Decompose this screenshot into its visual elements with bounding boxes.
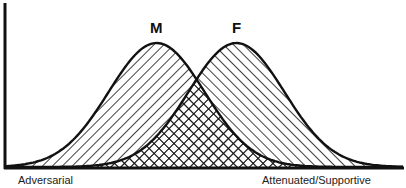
x-axis-left-label: Adversarial xyxy=(18,175,73,186)
series-label-m: M xyxy=(150,20,163,35)
plot-area xyxy=(5,43,404,167)
distribution-chart xyxy=(0,0,406,188)
series-label-f: F xyxy=(232,20,241,35)
x-axis-right-label: Attenuated/Supportive xyxy=(262,175,371,186)
